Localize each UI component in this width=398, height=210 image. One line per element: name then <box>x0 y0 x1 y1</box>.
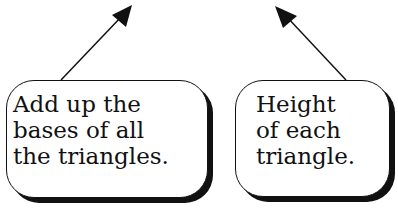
callout-bases: Add up the bases of all the triangles. <box>6 80 208 198</box>
callout-height: Height of each triangle. <box>235 80 390 197</box>
callout-line: Height <box>256 91 389 117</box>
arrow-bases <box>61 5 132 80</box>
callout-line: bases of all <box>13 117 207 143</box>
callout-line: the triangles. <box>13 143 207 169</box>
arrow-height <box>275 6 346 80</box>
callout-line: triangle. <box>256 143 389 169</box>
callout-line: of each <box>256 117 389 143</box>
callout-line: Add up the <box>13 91 207 117</box>
